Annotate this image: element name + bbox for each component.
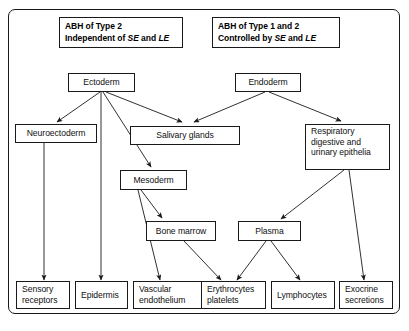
node-bone-marrow-label: Bone marrow xyxy=(156,226,207,237)
header-box-type2: ABH of Type 2 Independent of SE and LE xyxy=(59,17,183,48)
node-neuroectoderm-label: Neuroectoderm xyxy=(27,128,86,139)
node-sensory-receptors-line1: Sensory xyxy=(22,284,53,295)
node-ectoderm-label: Ectoderm xyxy=(83,77,119,88)
node-exocrine-line2: secretions xyxy=(345,295,384,306)
gene-se-italic: SE xyxy=(274,33,285,43)
node-exocrine-line1: Exocrine xyxy=(345,284,378,295)
node-erythrocytes-platelets: Erythrocytes platelets xyxy=(201,281,266,309)
header-type1-2-line2: Controlled by SE and LE xyxy=(218,33,334,44)
node-lymphocytes-label: Lymphocytes xyxy=(277,290,327,301)
node-epidermis-label: Epidermis xyxy=(81,290,119,301)
node-mesoderm: Mesoderm xyxy=(120,170,187,190)
node-ectoderm: Ectoderm xyxy=(68,73,135,92)
node-epidermis: Epidermis xyxy=(75,281,128,309)
diagram-canvas: ABH of Type 2 Independent of SE and LE A… xyxy=(0,0,409,331)
gene-le-italic: LE xyxy=(158,33,169,43)
node-endoderm-label: Endoderm xyxy=(248,77,287,88)
node-sensory-receptors-line2: receptors xyxy=(22,295,57,306)
gene-le-italic: LE xyxy=(305,33,316,43)
node-plasma-label: Plasma xyxy=(255,226,283,237)
node-respiratory-line2: digestive and xyxy=(311,137,361,148)
node-erythrocytes-line1: Erythrocytes xyxy=(207,284,254,295)
node-respiratory-line1: Respiratory xyxy=(311,126,354,137)
node-plasma: Plasma xyxy=(238,221,301,241)
gene-se-italic: SE xyxy=(128,33,139,43)
node-lymphocytes: Lymphocytes xyxy=(271,281,335,309)
header-type1-2-line1: ABH of Type 1 and 2 xyxy=(218,21,334,32)
node-vascular-endothelium-line2: endothelium xyxy=(139,295,185,306)
node-bone-marrow: Bone marrow xyxy=(146,221,216,241)
header-type2-line1: ABH of Type 2 xyxy=(65,21,177,32)
header-type2-line2: Independent of SE and LE xyxy=(65,33,177,44)
node-respiratory-line3: urinary epithelia xyxy=(311,147,371,158)
header-box-type1-and-2: ABH of Type 1 and 2 Controlled by SE and… xyxy=(212,17,340,48)
node-exocrine-secretions: Exocrine secretions xyxy=(339,281,393,309)
node-neuroectoderm: Neuroectoderm xyxy=(15,124,97,143)
node-salivary-glands: Salivary glands xyxy=(130,126,240,145)
node-mesoderm-label: Mesoderm xyxy=(133,175,173,186)
node-vascular-endothelium: Vascular endothelium xyxy=(133,281,203,309)
node-vascular-endothelium-line1: Vascular xyxy=(139,284,171,295)
node-salivary-glands-label: Salivary glands xyxy=(156,130,214,141)
node-endoderm: Endoderm xyxy=(235,73,301,92)
node-respiratory-epithelia: Respiratory digestive and urinary epithe… xyxy=(305,124,390,170)
node-sensory-receptors: Sensory receptors xyxy=(16,281,70,309)
node-erythrocytes-line2: platelets xyxy=(207,295,239,306)
